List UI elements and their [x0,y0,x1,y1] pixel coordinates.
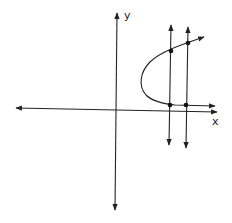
intersection-point [169,49,174,54]
y-axis-label: y [124,9,131,22]
intersection-point [186,41,191,46]
intersection-point [184,103,189,108]
intersection-point [168,103,173,108]
vertical-line-1 [169,25,171,145]
x-axis-label: x [212,115,219,128]
y-axis [115,13,117,210]
parabola-curve [141,37,215,106]
diagram-canvas: y x [0,0,232,223]
